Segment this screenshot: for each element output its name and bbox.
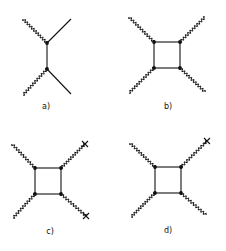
- diagrams-canvas: .ln{stroke:#111;stroke-width:1.1;fill:no…: [0, 0, 226, 251]
- panel-d-diagram: [130, 138, 210, 217]
- photon-line: [131, 193, 155, 218]
- photon-line: [61, 194, 87, 216]
- panel-a-diagram: [23, 19, 71, 95]
- cross-icon: [82, 141, 88, 147]
- panel-c-label: c): [46, 227, 54, 236]
- cross-icon: [204, 138, 210, 144]
- photon-line: [13, 194, 35, 219]
- photon-line: [180, 68, 206, 92]
- vertex-dot: [153, 165, 157, 169]
- panel-a-label: a): [42, 102, 50, 111]
- panel-d-label: d): [164, 226, 172, 235]
- photon-line: [12, 144, 36, 168]
- fermion-line: [47, 69, 71, 94]
- vertex-dot: [152, 40, 156, 44]
- vertex-dot: [152, 66, 156, 70]
- photon-line: [181, 141, 207, 168]
- vertex-dot: [33, 166, 37, 170]
- vertex-dot: [59, 166, 63, 170]
- vertex-dot: [153, 191, 157, 195]
- vertex-dot: [45, 41, 49, 45]
- vertex-dot: [45, 67, 49, 71]
- photon-line: [23, 69, 47, 96]
- photon-line: [61, 144, 85, 169]
- vertex-dot: [178, 40, 182, 44]
- photon-line: [129, 17, 155, 42]
- cross-icon: [83, 213, 89, 219]
- panel-b-diagram: [129, 17, 206, 94]
- photon-line: [180, 17, 205, 43]
- vertex-dot: [179, 165, 183, 169]
- panel-c-diagram: [12, 141, 89, 219]
- photon-line: [23, 19, 48, 43]
- vertex-dot: [178, 66, 182, 70]
- vertex-dot: [59, 192, 63, 196]
- photon-line: [181, 193, 207, 215]
- photon-line: [129, 68, 154, 94]
- vertex-dot: [179, 191, 183, 195]
- photon-line: [130, 143, 156, 167]
- fermion-line: [47, 19, 71, 43]
- vertex-dot: [33, 192, 37, 196]
- feynman-diagram-figure: .ln{stroke:#111;stroke-width:1.1;fill:no…: [0, 0, 226, 251]
- panel-b-label: b): [164, 102, 172, 111]
